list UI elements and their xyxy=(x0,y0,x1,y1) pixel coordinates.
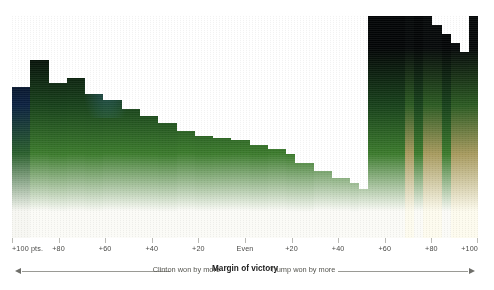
bar-column xyxy=(149,16,158,238)
bar-column-fill xyxy=(259,145,268,238)
bar-column-fill xyxy=(341,178,350,238)
bar-column-fill xyxy=(177,131,186,238)
bar-column-fill xyxy=(149,116,158,238)
bar-series xyxy=(12,16,478,238)
bar-column xyxy=(21,16,30,238)
axis-tick-label: +60 xyxy=(99,244,112,253)
right-direction-label: Trump won by more xyxy=(270,265,335,274)
bar-column xyxy=(286,16,295,238)
axis-tick-label: +80 xyxy=(425,244,438,253)
bar-column-fill xyxy=(286,154,295,238)
right-arrow-line xyxy=(338,271,468,272)
axis-tick-label: +20 xyxy=(285,244,298,253)
bar-column xyxy=(103,16,112,238)
bar-column xyxy=(94,16,103,238)
bar-column xyxy=(12,16,21,238)
axis-tick-label: Even xyxy=(237,244,254,253)
bar-column xyxy=(314,16,323,238)
bar-column xyxy=(39,16,48,238)
bar-column xyxy=(241,16,250,238)
bar-column xyxy=(368,16,377,238)
bar-column xyxy=(442,16,451,238)
bar-column xyxy=(131,16,140,238)
bar-column xyxy=(195,16,204,238)
bar-column-fill xyxy=(76,78,85,238)
bar-column xyxy=(451,16,460,238)
bar-column-fill xyxy=(103,100,112,238)
axis-tick-label: +60 xyxy=(378,244,391,253)
axis-tick-label: +40 xyxy=(145,244,158,253)
bar-column xyxy=(67,16,76,238)
bar-column-fill xyxy=(359,189,368,238)
bar-column-fill xyxy=(469,16,478,238)
bar-column-fill xyxy=(378,16,387,238)
bar-column-fill xyxy=(423,16,432,238)
bar-column xyxy=(186,16,195,238)
axis-tick-label: +20 xyxy=(192,244,205,253)
bar-column-fill xyxy=(451,43,460,238)
bar-column xyxy=(378,16,387,238)
bar-column xyxy=(396,16,405,238)
bar-column-fill xyxy=(186,131,195,238)
bar-column xyxy=(222,16,231,238)
right-arrow-head-icon xyxy=(469,268,475,274)
bar-column-fill xyxy=(213,138,222,238)
axis-tick-label: +100 pts. xyxy=(12,244,43,253)
bar-column xyxy=(58,16,67,238)
bar-column xyxy=(460,16,469,238)
bar-column-fill xyxy=(250,145,259,238)
bar-column-fill xyxy=(432,25,441,238)
bar-column-fill xyxy=(113,100,122,238)
bar-column xyxy=(305,16,314,238)
bar-column-fill xyxy=(12,87,21,238)
bar-column xyxy=(158,16,167,238)
axis-tick-mark xyxy=(198,238,199,243)
bar-column xyxy=(113,16,122,238)
bar-column xyxy=(140,16,149,238)
axis-tick-mark xyxy=(152,238,153,243)
axis-legend-row: Clinton won by more Margin of victory Tr… xyxy=(12,262,478,278)
bar-column-fill xyxy=(268,149,277,238)
bar-column xyxy=(277,16,286,238)
bar-column xyxy=(250,16,259,238)
bar-column-fill xyxy=(195,136,204,238)
bar-column-fill xyxy=(332,178,341,238)
bar-column xyxy=(332,16,341,238)
bar-column-fill xyxy=(222,138,231,238)
bar-column-fill xyxy=(122,109,131,238)
bar-column-fill xyxy=(323,171,332,238)
bar-column xyxy=(76,16,85,238)
axis-tick-mark xyxy=(477,238,478,243)
bar-column-fill xyxy=(39,60,48,238)
x-axis: +100 pts.+80+60+40+20Even+20+40+60+80+10… xyxy=(12,238,478,290)
axis-tick-mark xyxy=(105,238,106,243)
axis-tick-mark xyxy=(12,238,13,243)
bar-column xyxy=(259,16,268,238)
bar-column xyxy=(49,16,58,238)
bar-column xyxy=(30,16,39,238)
bar-column-fill xyxy=(30,60,39,238)
bar-column-fill xyxy=(140,116,149,238)
bar-column-fill xyxy=(277,149,286,238)
bar-column xyxy=(268,16,277,238)
bar-column-fill xyxy=(21,87,30,238)
bar-column xyxy=(167,16,176,238)
bar-column-fill xyxy=(460,52,469,238)
axis-tick-label: +100 xyxy=(461,244,478,253)
bar-column-fill xyxy=(295,163,304,238)
axis-tick-label: +40 xyxy=(332,244,345,253)
bar-column-fill xyxy=(387,16,396,238)
bar-column xyxy=(213,16,222,238)
bar-column-fill xyxy=(85,94,94,238)
bar-column xyxy=(387,16,396,238)
bar-column xyxy=(177,16,186,238)
bar-column xyxy=(469,16,478,238)
bar-column-fill xyxy=(305,163,314,238)
bar-column xyxy=(341,16,350,238)
bar-column xyxy=(432,16,441,238)
bar-column-fill xyxy=(396,16,405,238)
axis-tick-mark xyxy=(338,238,339,243)
left-direction-label: Clinton won by more xyxy=(153,265,220,274)
bar-column-fill xyxy=(442,34,451,238)
bar-column-fill xyxy=(167,123,176,238)
